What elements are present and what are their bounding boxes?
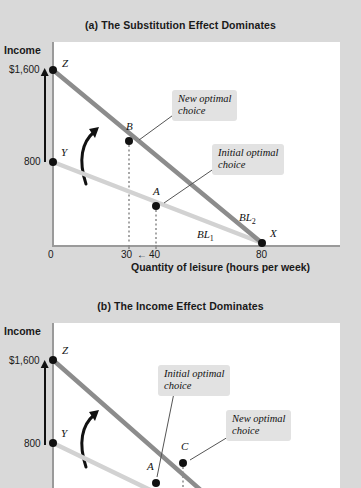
point-y-label-a: Y bbox=[61, 146, 67, 158]
point-b-label-a: B bbox=[126, 120, 133, 132]
point-a-label-a: A bbox=[153, 185, 160, 197]
y-axis-label-a: Income bbox=[4, 44, 41, 56]
point-z-label-a: Z bbox=[62, 57, 68, 69]
x-tick-0-a: 0 bbox=[48, 249, 54, 260]
y-axis-label-b: Income bbox=[4, 325, 41, 337]
callout-line-1: Initial optimal bbox=[164, 368, 224, 380]
income-gap-arrow-a bbox=[44, 72, 46, 162]
point-c-label-b: C bbox=[181, 440, 188, 452]
callout-line-2: choice bbox=[218, 159, 278, 171]
y-axis-b bbox=[52, 323, 54, 488]
panel-a-title: (a) The Substitution Effect Dominates bbox=[0, 19, 361, 31]
point-c-b bbox=[179, 459, 187, 467]
callout-new-optimal-choice-a: New optimal choice bbox=[172, 90, 237, 121]
point-a-b bbox=[152, 479, 160, 487]
y-tick-1600-b: $1,600 bbox=[9, 355, 40, 366]
y-tick-800-b: 800 bbox=[24, 438, 41, 449]
callout-line-2: choice bbox=[232, 425, 285, 437]
point-z-label-b: Z bbox=[62, 344, 68, 356]
x-tick-arrow-a: ← bbox=[137, 249, 147, 260]
point-x-label-a: X bbox=[270, 227, 277, 239]
point-a-a bbox=[152, 202, 160, 210]
point-a-label-b: A bbox=[147, 460, 154, 472]
callout-line-1: New optimal bbox=[232, 413, 285, 425]
y-tick-800-a: 800 bbox=[24, 156, 41, 167]
x-tick-40-a: 40 bbox=[149, 249, 160, 260]
callout-line-2: choice bbox=[178, 105, 231, 117]
point-y-label-b: Y bbox=[61, 427, 67, 439]
bl1-label-a: BL1 bbox=[197, 228, 214, 243]
callout-new-optimal-choice-b: New optimal choice bbox=[226, 410, 291, 441]
point-z-b bbox=[49, 356, 57, 364]
plot-area-a bbox=[52, 42, 340, 245]
panel-substitution-effect: (a) The Substitution Effect Dominates In… bbox=[0, 0, 361, 280]
callout-initial-optimal-choice-a: Initial optimal choice bbox=[212, 144, 284, 175]
panel-b-title: (b) The Income Effect Dominates bbox=[0, 300, 361, 312]
callout-line-1: New optimal bbox=[178, 93, 231, 105]
x-axis-title-a: Quantity of leisure (hours per week) bbox=[131, 261, 310, 273]
panel-income-effect: (b) The Income Effect Dominates Income $… bbox=[0, 282, 361, 488]
x-tick-80-a: 80 bbox=[256, 249, 267, 260]
callout-line-1: Initial optimal bbox=[218, 147, 278, 159]
point-y-b bbox=[49, 439, 57, 447]
y-tick-1600-a: $1,600 bbox=[9, 64, 40, 75]
callout-line-2: choice bbox=[164, 380, 224, 392]
x-axis-a bbox=[52, 245, 340, 247]
plot-area-b bbox=[52, 323, 340, 488]
point-y-a bbox=[49, 158, 57, 166]
bl2-label-a: BL2 bbox=[239, 211, 256, 226]
point-b-a bbox=[125, 137, 133, 145]
income-gap-arrow-b bbox=[44, 364, 46, 445]
point-x-a bbox=[258, 239, 266, 247]
callout-initial-optimal-choice-b: Initial optimal choice bbox=[158, 365, 230, 396]
x-tick-30-a: 30 bbox=[121, 249, 132, 260]
point-z-a bbox=[49, 66, 57, 74]
